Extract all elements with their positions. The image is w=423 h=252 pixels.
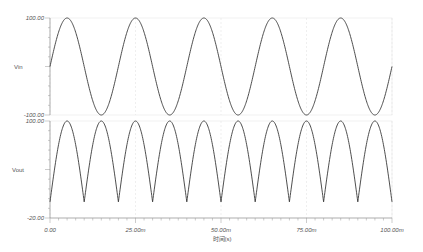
x-axis-title: 时间(s) (213, 235, 232, 243)
vin-panel: 100.00 -100.00 Vin (14, 15, 392, 118)
x-tick-label-3: 75.00m (296, 227, 316, 233)
x-tick-label-0: 0.00 (44, 227, 56, 233)
x-tick-label-4: 100.00m (380, 227, 403, 233)
vout-ymax-label: 100.00 (26, 118, 45, 124)
vin-y-ticks (45, 18, 50, 115)
x-tick-label-1: 25.00m (124, 227, 145, 233)
vout-axis-title: Vout (12, 167, 24, 173)
transient-plot: 100.00 -100.00 Vin 100.00 -20.00 Vout 0.… (0, 0, 423, 252)
vin-ymax-label: 100.00 (26, 15, 45, 21)
vin-trace (50, 18, 392, 115)
vout-y-ticks (45, 121, 50, 218)
vout-ymin-label: -20.00 (27, 215, 45, 221)
vout-grid (50, 121, 392, 218)
vout-panel: 100.00 -20.00 Vout (12, 118, 392, 223)
x-ticks (50, 218, 392, 223)
x-tick-label-2: 50.00m (211, 227, 231, 233)
vin-axis-title: Vin (14, 64, 23, 70)
